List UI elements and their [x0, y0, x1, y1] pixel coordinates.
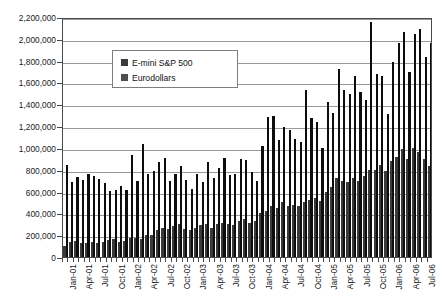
x-tick-mark [73, 258, 74, 262]
bar-eurodollars-may-01 [87, 174, 89, 257]
x-tick-mark [95, 258, 96, 262]
bar-eurodollars-jul-06 [425, 57, 427, 257]
x-tick-mark [165, 258, 166, 262]
x-tick-mark [291, 258, 292, 262]
bar-eurodollars-aug-06 [430, 43, 432, 257]
x-tick-mark [427, 258, 428, 262]
x-tick-label: Jan-06 [395, 264, 404, 290]
legend-item-0: E-mini S&P 500 [121, 55, 237, 70]
x-tick-mark [89, 258, 90, 262]
x-tick-mark [225, 258, 226, 262]
x-tick-label: Jan-04 [265, 264, 274, 290]
x-tick-mark [236, 258, 237, 262]
bar-eurodollars-oct-04 [310, 118, 312, 257]
bar-eurodollars-may-06 [414, 34, 416, 257]
x-tick-mark [182, 258, 183, 262]
bar-eurodollars-mar-05 [338, 69, 340, 257]
x-tick-mark [274, 258, 275, 262]
y-tick-label: 1,200,000 [0, 123, 56, 132]
x-tick-mark [214, 258, 215, 262]
bar-eurodollars-may-03 [218, 168, 220, 257]
x-tick-mark [67, 258, 68, 262]
bar-eurodollars-oct-05 [376, 74, 378, 257]
x-tick-mark [399, 258, 400, 262]
bar-eurodollars-feb-03 [202, 182, 204, 257]
bar-eurodollars-jun-05 [354, 76, 356, 257]
x-tick-mark [394, 258, 395, 262]
bar-eurodollars-nov-05 [381, 76, 383, 257]
legend-item-1: Eurodollars [121, 70, 237, 85]
x-tick-mark [383, 258, 384, 262]
x-tick-mark [176, 258, 177, 262]
y-tick-label: 1,600,000 [0, 79, 56, 88]
x-tick-mark [318, 258, 319, 262]
x-tick-mark [209, 258, 210, 262]
y-tick-label: 0 [0, 254, 56, 263]
bar-eurodollars-feb-02 [136, 181, 138, 257]
bar-eurodollars-oct-02 [180, 166, 182, 257]
x-tick-label: Apr-02 [150, 264, 159, 289]
bar-eurodollars-jan-04 [261, 146, 263, 257]
bar-eurodollars-dec-03 [256, 181, 258, 257]
x-tick-label: Apr-03 [216, 264, 225, 289]
bar-eurodollars-jul-05 [359, 92, 361, 257]
x-tick-mark [367, 258, 368, 262]
bar-eurodollars-aug-02 [169, 181, 171, 257]
bar-eurodollars-apr-04 [278, 140, 280, 257]
bar-eurodollars-sep-02 [174, 174, 176, 257]
x-tick-mark [329, 258, 330, 262]
x-tick-mark [334, 258, 335, 262]
x-tick-mark [84, 258, 85, 262]
y-tick-label: 2,000,000 [0, 35, 56, 44]
bar-eurodollars-jun-06 [419, 29, 421, 257]
bar-eurodollars-jun-01 [93, 176, 95, 257]
x-tick-mark [127, 258, 128, 262]
bar-eurodollars-nov-04 [316, 122, 318, 257]
bar-eurodollars-jun-03 [223, 158, 225, 257]
bar-eurodollars-jan-06 [392, 62, 394, 257]
x-tick-label: Jan-01 [69, 264, 78, 290]
bar-eurodollars-sep-03 [240, 159, 242, 257]
y-tick-label: 1,800,000 [0, 57, 56, 66]
bar-eurodollars-jul-02 [164, 158, 166, 257]
x-tick-mark [133, 258, 134, 262]
bar-eurodollars-dec-01 [125, 190, 127, 257]
x-tick-label: Oct-04 [314, 264, 323, 289]
x-tick-mark [122, 258, 123, 262]
x-tick-mark [155, 258, 156, 262]
bar-eurodollars-sep-05 [370, 22, 372, 257]
bar-eurodollars-jan-02 [131, 155, 133, 257]
x-tick-mark [187, 258, 188, 262]
bar-eurodollars-jan-05 [327, 102, 329, 257]
x-tick-mark [106, 258, 107, 262]
bar-eurodollars-mar-01 [76, 177, 78, 257]
y-tick-label: 600,000 [0, 188, 56, 197]
x-tick-mark [231, 258, 232, 262]
bar-eurodollars-jun-04 [289, 130, 291, 257]
x-tick-mark [193, 258, 194, 262]
bar-eurodollars-feb-01 [71, 182, 73, 257]
x-tick-mark [263, 258, 264, 262]
x-tick-mark [378, 258, 379, 262]
legend-swatch-icon-0 [121, 59, 128, 66]
y-tick-label: 1,000,000 [0, 144, 56, 153]
bar-eurodollars-nov-03 [251, 172, 253, 257]
x-tick-mark [138, 258, 139, 262]
x-tick-mark [410, 258, 411, 262]
y-axis: 0200,000400,000600,000800,0001,000,0001,… [0, 0, 56, 305]
x-tick-mark [78, 258, 79, 262]
x-tick-mark [242, 258, 243, 262]
x-tick-label: Oct-03 [248, 264, 257, 289]
x-tick-mark [296, 258, 297, 262]
x-tick-mark [312, 258, 313, 262]
x-tick-mark [361, 258, 362, 262]
x-tick-mark [160, 258, 161, 262]
x-tick-mark [149, 258, 150, 262]
bar-eurodollars-apr-02 [147, 174, 149, 257]
y-tick-label: 800,000 [0, 166, 56, 175]
bar-eurodollars-may-02 [153, 171, 155, 257]
bar-eurodollars-sep-04 [305, 90, 307, 257]
bar-eurodollars-apr-01 [82, 180, 84, 257]
x-tick-mark [285, 258, 286, 262]
x-tick-label: Jul-04 [297, 264, 306, 287]
